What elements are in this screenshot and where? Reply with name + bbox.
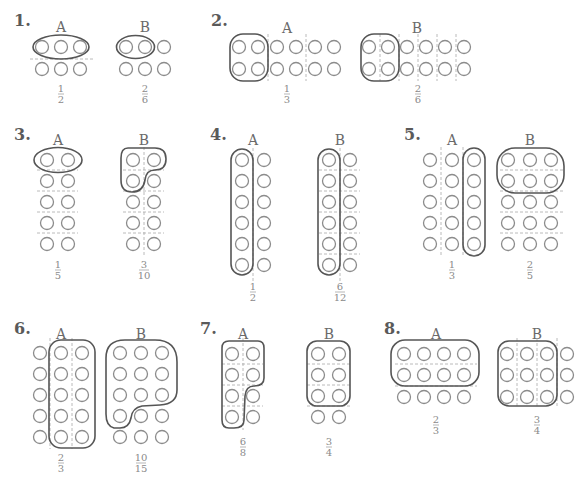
problem-8: 8. A 2 3 B <box>384 319 574 436</box>
circle-grid <box>398 348 471 404</box>
problem-5: 5. A 1 3 B <box>404 125 565 281</box>
denominator: 2 <box>58 94 64 105</box>
diagram-a: A 1 2 <box>231 132 271 303</box>
circle-grid <box>502 154 558 251</box>
diagram-label: B <box>324 326 334 342</box>
problem-number: 4. <box>210 125 227 144</box>
problem-number: 1. <box>14 11 31 30</box>
problem-number: 7. <box>200 319 217 338</box>
fraction: 3 10 <box>138 259 151 281</box>
circle-grid <box>233 41 341 76</box>
problem-6: 6. A 2 3 B <box>14 319 177 474</box>
numerator: 1 <box>284 83 290 94</box>
denominator: 8 <box>240 447 246 458</box>
group-outline <box>498 341 557 406</box>
denominator: 6 <box>415 94 421 105</box>
fraction: 6 12 <box>334 281 347 303</box>
fraction: 3 4 <box>326 436 332 458</box>
group-outline <box>463 148 485 256</box>
denominator: 4 <box>534 425 540 436</box>
diagram-a: A 1 2 <box>30 19 93 105</box>
denominator: 15 <box>135 463 148 474</box>
diagram-label: B <box>335 132 345 148</box>
fraction: 2 3 <box>58 452 64 474</box>
diagram-b: B 3 10 <box>121 132 166 281</box>
problem-number: 5. <box>404 125 421 144</box>
diagram-label: B <box>139 132 149 148</box>
numerator: 3 <box>326 436 332 447</box>
denominator: 12 <box>334 292 347 303</box>
fraction: 10 15 <box>135 452 148 474</box>
circle-grid <box>34 347 89 444</box>
diagram-b: B 6 12 <box>318 132 360 303</box>
numerator: 2 <box>433 414 439 425</box>
problem-1: 1. A 1 2 B 2 6 <box>14 11 171 105</box>
circle-grid <box>36 41 87 76</box>
fraction-diagram: 1. A 1 2 B 2 6 <box>0 0 585 482</box>
denominator: 3 <box>58 463 64 474</box>
fraction: 1 2 <box>250 281 256 303</box>
circle-grid <box>114 347 169 444</box>
group-outline <box>33 35 89 59</box>
fraction: 1 3 <box>449 259 455 281</box>
diagram-label: A <box>281 20 293 36</box>
diagram-a: A 2 3 <box>34 326 96 474</box>
denominator: 5 <box>55 270 61 281</box>
diagram-label: A <box>247 132 259 148</box>
fraction: 2 6 <box>415 83 421 105</box>
fraction: 2 6 <box>142 83 148 105</box>
numerator: 6 <box>337 281 343 292</box>
problem-number: 3. <box>14 125 31 144</box>
diagram-label: B <box>525 132 535 148</box>
numerator: 2 <box>142 83 148 94</box>
denominator: 3 <box>433 425 439 436</box>
numerator: 1 <box>250 281 256 292</box>
circle-grid <box>312 348 346 424</box>
circle-grid <box>127 154 161 251</box>
circle-grid <box>363 41 471 76</box>
diagram-a: A 1 3 <box>424 132 486 281</box>
fraction: 1 2 <box>58 83 64 105</box>
fraction: 1 3 <box>284 83 290 105</box>
fraction: 6 8 <box>240 436 246 458</box>
diagram-b: B 10 15 <box>106 326 177 474</box>
problem-3: 3. A 1 5 B <box>14 125 166 281</box>
numerator: 3 <box>141 259 147 270</box>
fraction: 2 5 <box>527 259 533 281</box>
numerator: 6 <box>240 436 246 447</box>
numerator: 10 <box>135 452 148 463</box>
denominator: 5 <box>527 270 533 281</box>
numerator: 2 <box>58 452 64 463</box>
group-outline <box>231 149 253 275</box>
problem-7: 7. A 6 8 B <box>200 319 350 458</box>
fraction: 3 4 <box>534 414 540 436</box>
numerator: 3 <box>534 414 540 425</box>
problem-number: 8. <box>384 319 401 338</box>
fraction: 1 5 <box>55 259 61 281</box>
diagram-a: A 1 3 <box>230 20 341 105</box>
diagram-a: A 6 8 <box>222 326 264 458</box>
numerator: 2 <box>415 83 421 94</box>
denominator: 4 <box>326 447 332 458</box>
diagram-label: B <box>412 20 422 36</box>
problem-2: 2. A 1 3 B <box>211 11 471 105</box>
numerator: 1 <box>58 83 64 94</box>
diagram-a: A 2 3 <box>391 326 479 436</box>
diagram-b: B 2 6 <box>117 19 171 105</box>
diagram-a: A 1 5 <box>34 132 82 281</box>
fraction: 2 3 <box>433 414 439 436</box>
denominator: 3 <box>449 270 455 281</box>
group-outline <box>106 340 177 428</box>
denominator: 2 <box>250 292 256 303</box>
problem-4: 4. A 1 2 B <box>210 125 360 303</box>
diagram-b: B 3 4 <box>307 326 350 458</box>
diagram-label: B <box>140 19 150 35</box>
denominator: 6 <box>142 94 148 105</box>
group-outline <box>117 36 155 59</box>
diagram-label: A <box>446 132 458 148</box>
group-outline <box>307 341 350 406</box>
denominator: 10 <box>138 270 151 281</box>
numerator: 2 <box>527 259 533 270</box>
circle-grid <box>41 154 75 251</box>
denominator: 3 <box>284 94 290 105</box>
